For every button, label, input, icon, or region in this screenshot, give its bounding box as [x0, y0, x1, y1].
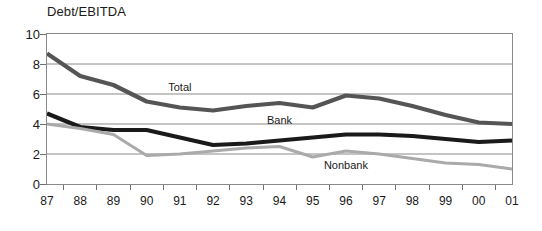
- x-axis-tickmark-99: [429, 185, 430, 190]
- x-axis-tick-label-95: 95: [306, 194, 319, 208]
- chart-title: Debt/EBITDA: [47, 4, 126, 19]
- x-axis-tickmark-92: [196, 185, 197, 190]
- x-axis-tickmark-00: [462, 185, 463, 190]
- y-axis-tick-label-10: 10: [6, 27, 40, 42]
- x-axis-tick-label-88: 88: [74, 194, 87, 208]
- x-axis-tickmark-94: [263, 185, 264, 190]
- y-axis: 0246810: [0, 0, 40, 231]
- x-axis-tickmark-91: [163, 185, 164, 190]
- x-axis-tickmark-90: [130, 185, 131, 190]
- x-axis-tickmark-88: [63, 185, 64, 190]
- y-axis-tick-label-2: 2: [6, 147, 40, 162]
- debt-ebitda-line-chart: Debt/EBITDA 0246810 87888990919293949596…: [0, 0, 542, 231]
- x-axis-tickmark-89: [96, 185, 97, 190]
- x-axis-tick-label-99: 99: [439, 194, 452, 208]
- y-axis-tick-label-4: 4: [6, 117, 40, 132]
- x-axis-tick-label-01: 01: [505, 194, 518, 208]
- x-axis-tickmark-97: [362, 185, 363, 190]
- x-axis-tickmark-01: [495, 185, 496, 190]
- x-axis-tickmark-96: [329, 185, 330, 190]
- x-axis-tick-label-98: 98: [406, 194, 419, 208]
- x-axis-tickmark-98: [395, 185, 396, 190]
- x-axis-tick-label-92: 92: [206, 194, 219, 208]
- x-axis-tick-label-96: 96: [339, 194, 352, 208]
- x-axis-tick-label-94: 94: [273, 194, 286, 208]
- x-axis-tick-label-90: 90: [140, 194, 153, 208]
- plot-area: [46, 33, 513, 185]
- x-axis-tickmark-95: [296, 185, 297, 190]
- series-line-bank: [47, 114, 512, 146]
- plot-svg: [47, 34, 512, 184]
- y-axis-tick-label-0: 0: [6, 177, 40, 192]
- x-axis-tick-label-91: 91: [173, 194, 186, 208]
- x-axis-tick-label-89: 89: [107, 194, 120, 208]
- x-axis-tick-label-00: 00: [472, 194, 485, 208]
- y-axis-tick-label-6: 6: [6, 87, 40, 102]
- x-axis-tick-label-93: 93: [240, 194, 253, 208]
- y-axis-tick-label-8: 8: [6, 57, 40, 72]
- x-axis-tickmark-93: [229, 185, 230, 190]
- x-axis-tick-label-97: 97: [372, 194, 385, 208]
- x-axis-tick-label-87: 87: [40, 194, 53, 208]
